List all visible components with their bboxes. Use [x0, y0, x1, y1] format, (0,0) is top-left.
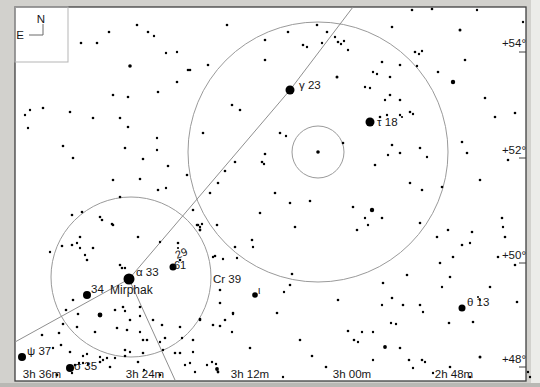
field-star	[514, 112, 517, 115]
field-star	[367, 224, 369, 226]
field-star	[448, 322, 451, 325]
field-star	[206, 364, 208, 366]
field-star	[416, 65, 418, 67]
field-star	[436, 236, 439, 239]
field-star	[139, 306, 142, 309]
field-star	[522, 21, 524, 23]
field-star	[337, 299, 340, 302]
field-star	[399, 152, 402, 155]
field-star	[192, 339, 195, 342]
field-star	[479, 179, 482, 182]
field-star	[176, 81, 179, 84]
field-star	[306, 46, 308, 48]
bottom-page-edge	[0, 383, 540, 387]
field-star	[77, 313, 80, 316]
field-star	[101, 219, 104, 222]
field-star	[224, 319, 227, 322]
gamma-23-per	[286, 86, 295, 95]
field-star	[61, 245, 64, 248]
field-star	[263, 163, 265, 165]
field-star	[370, 208, 374, 212]
field-star	[422, 311, 424, 313]
field-star	[108, 31, 111, 34]
field-star	[137, 361, 140, 364]
field-star	[142, 158, 145, 161]
field-star	[215, 363, 217, 365]
field-star	[336, 76, 339, 79]
field-star	[347, 330, 350, 333]
label-theta-13: θ 13	[467, 296, 489, 308]
field-star	[62, 145, 65, 148]
label-gamma-23: γ 23	[299, 79, 321, 91]
field-star	[461, 141, 464, 144]
field-star	[192, 209, 195, 212]
field-star	[264, 59, 267, 62]
field-star	[164, 337, 167, 340]
field-star	[60, 344, 63, 347]
label-tau-18: τ 18	[377, 116, 398, 128]
field-star	[406, 274, 409, 277]
field-star	[79, 247, 81, 249]
field-star	[412, 113, 414, 115]
field-star	[409, 111, 412, 114]
field-star	[402, 304, 405, 307]
field-star	[484, 97, 487, 100]
label-cr-39: Cr 39	[213, 273, 241, 285]
field-star	[209, 192, 212, 195]
field-star	[98, 313, 103, 318]
field-star	[311, 355, 314, 358]
field-star	[399, 347, 402, 350]
field-star	[226, 24, 229, 27]
field-star	[147, 31, 150, 34]
field-star	[76, 326, 79, 329]
declination-label: +52°	[502, 144, 526, 156]
field-star	[189, 362, 191, 364]
field-star	[494, 116, 497, 119]
field-star	[72, 299, 75, 302]
field-star	[216, 224, 219, 227]
field-star	[289, 284, 292, 287]
field-star	[124, 267, 126, 269]
field-star	[165, 52, 167, 54]
field-star	[325, 366, 328, 369]
field-star	[419, 304, 422, 307]
field-star	[261, 161, 264, 164]
field-star	[249, 347, 252, 350]
field-star	[119, 196, 122, 199]
field-star	[142, 339, 145, 342]
field-star	[236, 257, 238, 259]
field-star	[381, 61, 384, 64]
field-star	[71, 372, 73, 374]
label-sigma-35: σ 35	[74, 360, 97, 372]
field-star	[419, 222, 422, 225]
field-star	[376, 73, 378, 75]
field-star	[109, 366, 112, 369]
field-star	[252, 246, 254, 248]
field-star	[321, 42, 323, 44]
field-star	[174, 352, 177, 355]
field-star	[219, 302, 222, 305]
field-star	[49, 251, 51, 253]
field-star	[159, 241, 161, 243]
field-star	[399, 64, 402, 67]
field-star	[119, 264, 122, 267]
field-star	[128, 64, 132, 68]
field-star	[347, 49, 349, 51]
field-star	[472, 321, 475, 324]
field-star	[112, 179, 115, 182]
field-star	[231, 331, 233, 333]
field-star	[217, 371, 220, 374]
field-star	[119, 117, 122, 120]
field-star	[401, 116, 403, 118]
psi-37-per	[18, 353, 26, 361]
field-star	[476, 9, 478, 11]
field-star	[309, 200, 312, 203]
field-star	[343, 40, 345, 42]
field-star	[232, 313, 234, 315]
field-star	[389, 76, 392, 79]
field-star	[179, 352, 182, 355]
field-star	[106, 357, 108, 359]
field-star	[337, 41, 340, 44]
field-star	[136, 24, 139, 27]
field-star	[447, 229, 450, 232]
